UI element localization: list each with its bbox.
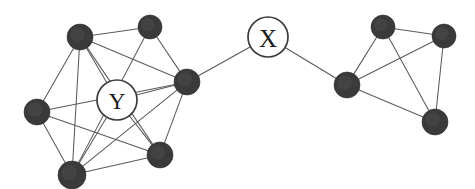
node-disc-highlight (71, 28, 85, 42)
graph-edge (47, 116, 149, 152)
graph-node (24, 99, 50, 125)
graph-node (174, 69, 200, 95)
node-disc-highlight (28, 103, 42, 117)
graph-edge (78, 117, 107, 165)
node-disc-highlight (426, 113, 440, 127)
node-disc-highlight (338, 76, 352, 90)
node-disc-highlight (374, 18, 387, 31)
graph-edge (353, 36, 378, 76)
graph-edge (136, 85, 176, 95)
node-label-x: X (259, 25, 277, 52)
graph-edge (73, 48, 80, 163)
graph-node (67, 24, 93, 50)
graph-edge (156, 35, 181, 73)
graph-node (334, 72, 360, 98)
graph-edge (357, 41, 435, 81)
labeled-node-x: X (248, 17, 288, 57)
graph-edge (285, 47, 338, 79)
graph-canvas: YX (0, 0, 475, 189)
graph-node (138, 15, 162, 39)
graph-edge (86, 46, 107, 82)
graph-node (147, 142, 173, 168)
node-disc-highlight (62, 165, 77, 180)
graph-node (371, 15, 395, 39)
graph-node (58, 161, 86, 189)
node-disc-highlight (151, 146, 165, 160)
graph-edge (164, 92, 183, 144)
node-label-y: Y (109, 89, 126, 114)
graph-edge (388, 36, 430, 113)
node-disc-highlight (178, 73, 192, 87)
network-diagram: YX (0, 0, 475, 189)
node-disc-highlight (435, 27, 448, 40)
graph-edge (357, 89, 425, 117)
graph-edge (129, 116, 153, 147)
graph-edge (197, 47, 251, 77)
graph-edge (91, 28, 140, 35)
graph-edge (84, 157, 150, 172)
graph-edge (436, 46, 443, 111)
graph-edge (42, 47, 74, 103)
node-disc-highlight (141, 18, 154, 31)
graph-edge (42, 122, 66, 165)
labeled-node-y: Y (97, 80, 137, 120)
graph-node (422, 109, 448, 135)
graph-node (432, 24, 456, 48)
graph-edge (393, 28, 434, 34)
